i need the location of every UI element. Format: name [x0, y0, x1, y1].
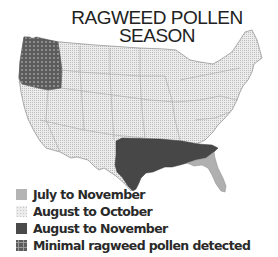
legend-item-minimal-pollen: Minimal ragweed pollen detected: [16, 237, 250, 254]
legend: July to November August to October Augus…: [16, 186, 250, 254]
dotted-swatch-icon: [16, 206, 27, 217]
region-minimal-pollen: [19, 37, 62, 90]
legend-label: August to October: [33, 204, 152, 219]
dark-gray-swatch-icon: [16, 223, 27, 234]
legend-label: Minimal ragweed pollen detected: [33, 238, 250, 253]
legend-item-august-to-october: August to October: [16, 203, 250, 220]
title-line-2: SEASON: [62, 27, 252, 45]
map-title: RAGWEED POLLEN SEASON: [62, 9, 252, 45]
grid-swatch-icon: [16, 240, 27, 251]
light-gray-swatch-icon: [16, 189, 27, 200]
legend-item-august-to-november: August to November: [16, 220, 250, 237]
legend-item-july-to-november: July to November: [16, 186, 250, 203]
legend-label: July to November: [33, 187, 145, 202]
legend-label: August to November: [33, 221, 168, 236]
